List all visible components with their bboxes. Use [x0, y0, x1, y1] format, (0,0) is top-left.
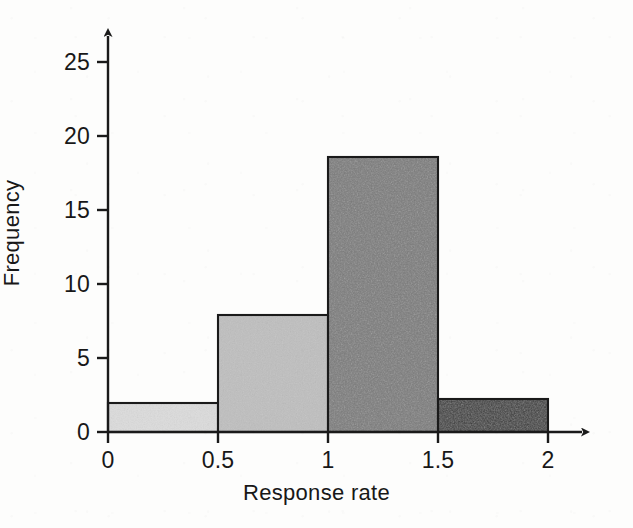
y-tick-label-20: 20	[52, 123, 90, 150]
x-tick-label-2: 2	[542, 447, 555, 474]
bar-bin-1.5-2	[438, 399, 548, 432]
x-tick-label-1: 1	[322, 447, 335, 474]
y-tick-label-15: 15	[52, 197, 90, 224]
bar-bin-1-1.5	[328, 157, 438, 432]
x-tick-label-0: 0	[102, 447, 115, 474]
bar-bin-0.5-1	[218, 315, 328, 432]
x-tick-label-0.5: 0.5	[202, 447, 235, 474]
x-axis	[108, 432, 582, 443]
plot-area	[0, 0, 633, 528]
y-tick-label-0: 0	[52, 419, 90, 446]
x-tick-label-1.5: 1.5	[422, 447, 455, 474]
y-tick-label-5: 5	[52, 345, 90, 372]
bar-bin-0-0.5	[108, 403, 218, 432]
histogram-figure: 25 20 15 10 5 0 0 0.5 1 1.5 2 Response r…	[0, 0, 633, 528]
y-axis	[97, 36, 108, 432]
y-tick-label-10: 10	[52, 271, 90, 298]
y-axis-title-text: Frequency	[0, 180, 25, 287]
y-tick-label-25: 25	[52, 49, 90, 76]
x-axis-title: Response rate	[0, 480, 633, 506]
